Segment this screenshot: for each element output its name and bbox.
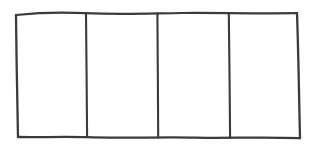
cell-divider-1 (86, 13, 87, 137)
hand-drawn-rectangle-diagram (0, 0, 314, 150)
sketch-canvas (0, 0, 314, 150)
cell-divider-3 (229, 13, 230, 138)
cell-divider-2 (157, 13, 158, 137)
